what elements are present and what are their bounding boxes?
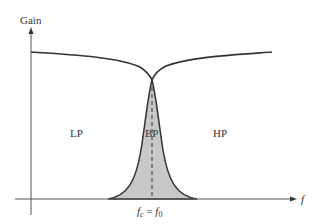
bandpass-label: BP xyxy=(145,127,158,139)
y-axis-arrow-icon xyxy=(29,27,34,34)
x-axis-arrow-icon xyxy=(290,197,297,202)
highpass-curve xyxy=(152,52,272,80)
lowpass-label: LP xyxy=(70,127,83,139)
filter-response-diagram: Gain f LP BP HP fc = f0 xyxy=(0,0,313,224)
lowpass-curve xyxy=(31,52,152,80)
y-axis-label: Gain xyxy=(20,14,42,26)
highpass-label: HP xyxy=(213,127,227,139)
x-axis-label: f xyxy=(301,193,306,205)
center-frequency-label: fc = f0 xyxy=(137,205,162,219)
